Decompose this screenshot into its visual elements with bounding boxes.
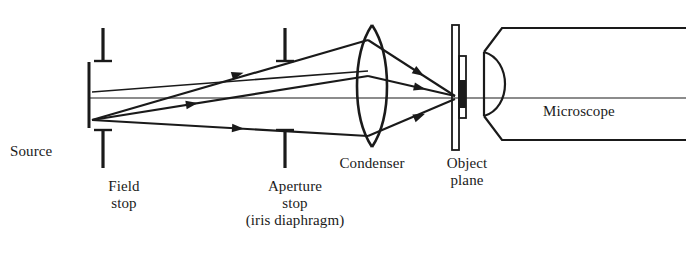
object-plane-component xyxy=(452,25,466,150)
axial-ray-converging xyxy=(368,76,455,96)
ray-bundle-converging xyxy=(368,40,455,136)
label-microscope: Microscope xyxy=(543,103,615,120)
upper-ray-incident xyxy=(92,40,368,120)
upper-ray-focus-arrowhead xyxy=(412,66,427,80)
axial-ray-focus-arrowhead xyxy=(413,82,427,93)
ray-bundle-incident xyxy=(92,40,368,136)
label-object-plane: Object plane xyxy=(422,155,512,189)
label-aperture-stop: Aperture stop (iris diaphragm) xyxy=(215,178,375,228)
lower-ray-incident xyxy=(92,120,368,136)
microscope-objective-lens xyxy=(484,52,505,116)
object-plane-slide xyxy=(452,25,459,150)
lower-ray-arrowhead xyxy=(232,124,244,133)
label-condenser: Condenser xyxy=(312,155,432,172)
optical-diagram-figure: Source Field stop Aperture stop (iris di… xyxy=(0,0,686,279)
label-field-stop: Field stop xyxy=(64,178,184,212)
object-plane-specimen xyxy=(459,80,466,108)
microscope-tube-top xyxy=(484,28,686,52)
microscope-component xyxy=(484,28,686,140)
diagram-canvas xyxy=(0,0,686,279)
field-edge-ray-incident xyxy=(92,71,368,92)
upper-ray-converging xyxy=(368,40,455,96)
label-source: Source xyxy=(10,143,52,160)
lower-ray-converging xyxy=(368,99,455,136)
